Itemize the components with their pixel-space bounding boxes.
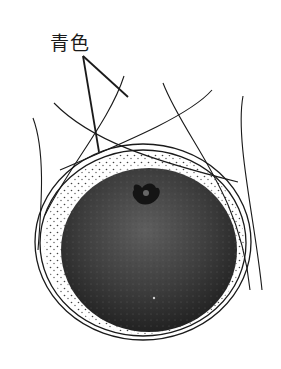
pointer-lines <box>83 56 128 152</box>
fruit-illustration <box>0 0 281 369</box>
